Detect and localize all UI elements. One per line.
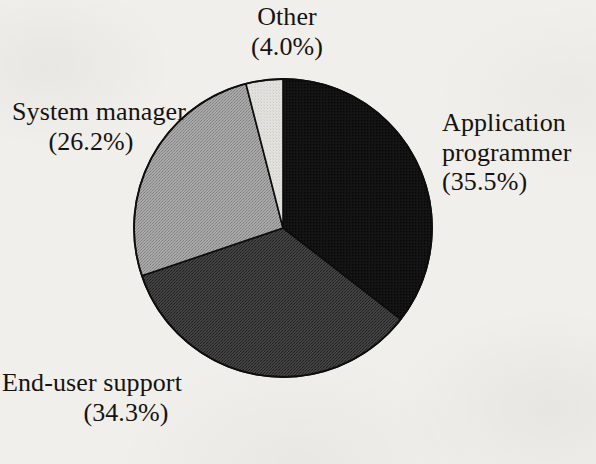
pie-label-end-user-support: End-user support (34.3%) bbox=[2, 368, 224, 427]
pie-label-other-value: (4.0%) bbox=[212, 32, 362, 62]
pie-label-application-programmer-name-line1: Application bbox=[442, 108, 596, 138]
pie-label-application-programmer: Application programmer (35.5%) bbox=[442, 108, 596, 197]
pie-label-end-user-support-value: (34.3%) bbox=[2, 398, 224, 428]
pie-chart-figure: Other (4.0%) System manager (26.2%) Appl… bbox=[0, 0, 596, 464]
pie-label-system-manager-name: System manager bbox=[12, 97, 170, 127]
pie-label-system-manager: System manager (26.2%) bbox=[12, 97, 170, 156]
pie-label-application-programmer-value: (35.5%) bbox=[442, 167, 596, 197]
pie-label-other-name: Other bbox=[212, 2, 362, 32]
pie-label-application-programmer-name-line2: programmer bbox=[442, 138, 596, 168]
pie-label-other: Other (4.0%) bbox=[212, 2, 362, 61]
pie-label-end-user-support-name: End-user support bbox=[2, 368, 224, 398]
pie-label-system-manager-value: (26.2%) bbox=[12, 127, 170, 157]
